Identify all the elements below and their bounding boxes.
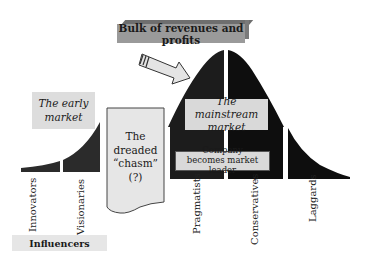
chasm-line2: dreaded	[107, 144, 164, 158]
segment-label-pragmatists: Pragmatists	[191, 173, 202, 234]
chasm-line3: “chasm”	[107, 157, 164, 171]
segment-label-visionaries: Visionaries	[75, 179, 86, 235]
arrow-icon	[139, 54, 190, 84]
chasm-line1: The	[107, 130, 164, 144]
banner-side-face	[245, 20, 249, 39]
mainstream-line2: market	[185, 121, 268, 134]
segment-label-conservatives: Conservatives	[249, 174, 260, 245]
segment-label-innovators: Innovators	[27, 178, 38, 232]
chasm-line4: (?)	[107, 171, 164, 185]
mainstream-market-label: The mainstream market	[185, 99, 268, 130]
influencers-label: Influencers	[12, 235, 107, 251]
revenue-banner: Bulk of revenues and profits	[117, 24, 245, 43]
innovators-segment	[21, 161, 60, 172]
chasm-label: The dreaded “chasm” (?)	[107, 130, 164, 185]
mainstream-line1: The mainstream	[185, 95, 268, 121]
visionaries-segment	[63, 122, 100, 172]
early-market-line1: The early	[38, 97, 88, 110]
company-leader-label: Company becomes market leader	[175, 151, 270, 171]
early-market-line2: market	[38, 111, 88, 124]
laggards-segment	[288, 128, 350, 179]
early-market-label: The early market	[32, 92, 95, 129]
segment-label-laggards: Laggards	[307, 174, 318, 222]
